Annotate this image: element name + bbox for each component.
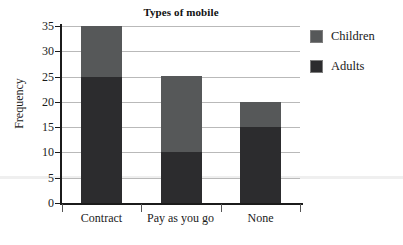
- legend-swatch-children: [310, 30, 323, 43]
- y-tick-label: 15: [30, 121, 54, 133]
- y-tick-mark: [55, 77, 62, 78]
- bar-segment-children: [240, 102, 281, 127]
- chart-title: Types of mobile: [62, 6, 300, 18]
- bar-none: [240, 102, 281, 203]
- legend-swatch-adults: [310, 60, 323, 73]
- x-tick-mark: [300, 204, 301, 212]
- y-tick-mark: [55, 102, 62, 103]
- y-tick-mark: [55, 127, 62, 128]
- y-tick-label: 5: [30, 172, 54, 184]
- bar-segment-adults: [240, 127, 281, 203]
- legend-item-adults[interactable]: Adults: [310, 56, 400, 77]
- y-tick-label: 0: [30, 197, 54, 209]
- legend-label-children: Children: [331, 29, 375, 44]
- y-tick-label: 25: [30, 71, 54, 83]
- bar-segment-adults: [161, 152, 202, 203]
- y-tick-mark: [55, 51, 62, 52]
- x-tick-label-contract: Contract: [62, 211, 141, 226]
- legend-item-children[interactable]: Children: [310, 26, 400, 47]
- y-tick-label: 35: [30, 20, 54, 32]
- y-tick-mark: [55, 178, 62, 179]
- legend-label-adults: Adults: [331, 59, 364, 74]
- bar-segment-children: [161, 76, 202, 152]
- y-tick-mark: [55, 152, 62, 153]
- x-tick-label-pay-as-you-go: Pay as you go: [141, 211, 220, 226]
- x-tick-label-none: None: [221, 211, 300, 226]
- bar-segment-children: [81, 26, 122, 77]
- bar-segment-adults: [81, 77, 122, 203]
- y-tick-label: 30: [30, 45, 54, 57]
- bar-pay-as-you-go: [161, 77, 202, 203]
- y-tick-label: 20: [30, 96, 54, 108]
- y-tick-mark: [55, 26, 62, 27]
- chart-figure: Types of mobile Frequency 05101520253035…: [0, 0, 403, 245]
- y-tick-label: 10: [30, 146, 54, 158]
- bar-contract: [81, 26, 122, 203]
- y-axis-title: Frequency: [12, 49, 27, 159]
- y-tick-mark: [55, 203, 62, 204]
- x-axis-line: [60, 203, 303, 205]
- plot-area: [62, 26, 300, 203]
- chart-legend: Children Adults: [310, 26, 400, 86]
